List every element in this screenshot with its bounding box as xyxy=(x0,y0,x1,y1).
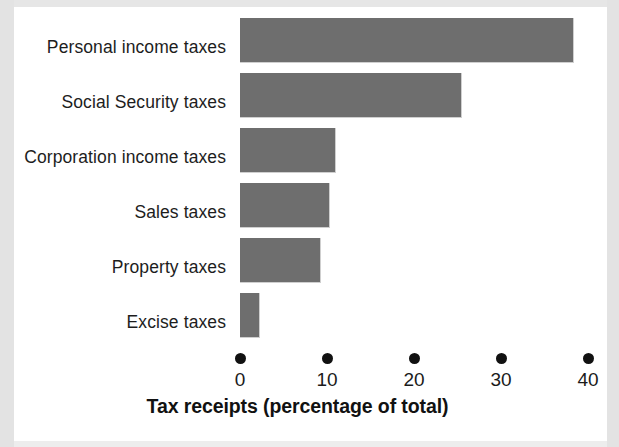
bar-personal-income-taxes xyxy=(240,18,574,63)
bar-excise-taxes xyxy=(240,293,260,338)
scan-edge-bottom xyxy=(0,441,619,447)
category-label-sales-taxes: Sales taxes xyxy=(14,204,226,222)
axis-tick-label-30: 30 xyxy=(476,370,526,389)
category-label-personal-income-taxes: Personal income taxes xyxy=(14,39,226,57)
category-label-property-taxes: Property taxes xyxy=(14,259,226,277)
category-label-corporation-income-taxes: Corporation income taxes xyxy=(14,149,226,167)
axis-tick-dot-30 xyxy=(496,353,507,364)
axis-tick-label-0: 0 xyxy=(215,370,265,389)
bar-social-security-taxes xyxy=(240,73,462,118)
scan-edge-left xyxy=(0,0,14,447)
x-axis-title: Tax receipts (percentage of total) xyxy=(14,395,607,418)
axis-tick-label-40: 40 xyxy=(563,370,613,389)
bar-property-taxes xyxy=(240,238,321,283)
category-label-social-security-taxes: Social Security taxes xyxy=(14,94,226,112)
bar-corporation-income-taxes xyxy=(240,128,336,173)
axis-tick-dot-20 xyxy=(409,353,420,364)
scan-edge-top xyxy=(0,0,619,7)
plot-area: Personal income taxes Social Security ta… xyxy=(14,7,607,441)
bar-sales-taxes xyxy=(240,183,330,228)
bar-chart-figure: Personal income taxes Social Security ta… xyxy=(0,0,619,447)
axis-tick-dot-0 xyxy=(235,353,246,364)
axis-tick-label-10: 10 xyxy=(302,370,352,389)
axis-tick-label-20: 20 xyxy=(389,370,439,389)
axis-tick-dot-40 xyxy=(583,353,594,364)
axis-tick-dot-10 xyxy=(322,353,333,364)
category-label-excise-taxes: Excise taxes xyxy=(14,314,226,332)
